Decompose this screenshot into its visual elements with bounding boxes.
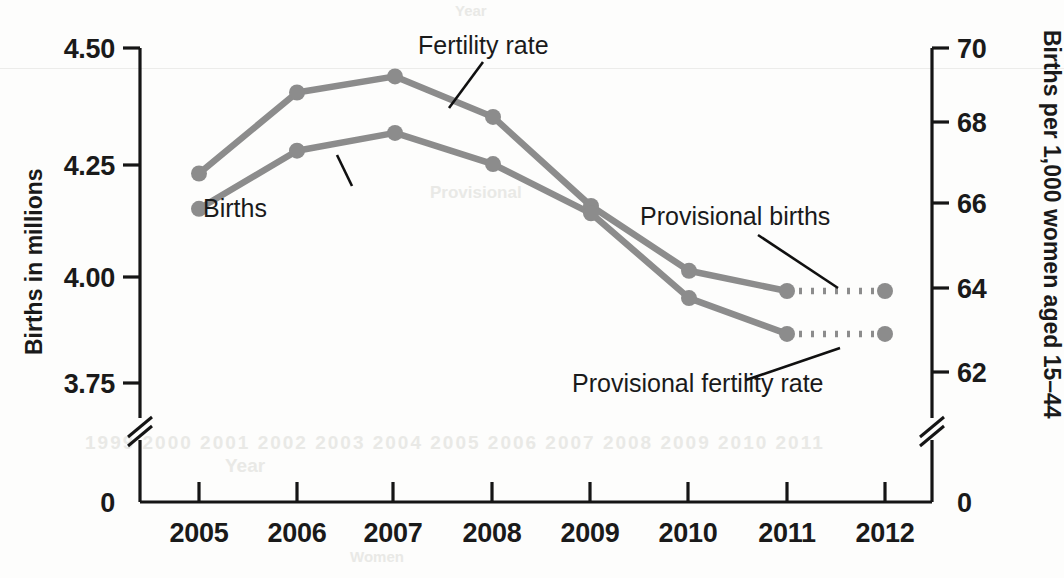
- x-tick-label-2007: 2007: [364, 518, 423, 548]
- right-tick-label-62: 62: [957, 358, 986, 388]
- x-tick-label-2006: 2006: [268, 518, 327, 548]
- provisional-fertility-rate-label: Provisional fertility rate: [572, 369, 823, 397]
- annotation-provisional-fertility-rate: Provisional fertility rate: [572, 348, 840, 397]
- right-tick-label-68: 68: [957, 108, 987, 138]
- marker-births-2007: [387, 125, 403, 141]
- chart-plot-area: 4.50 4.25 4.00 3.75 0 Births in millions…: [0, 0, 1064, 578]
- births-label: Births: [203, 194, 267, 222]
- fertility-rate-markers: [191, 68, 893, 299]
- x-tick-label-2011: 2011: [758, 518, 816, 548]
- left-tick-label-400: 4.00: [64, 263, 115, 293]
- x-tick-label-2009: 2009: [561, 518, 620, 548]
- marker-fertility-2007: [387, 68, 403, 84]
- series-fertility-rate: [191, 68, 893, 299]
- left-tick-label-425: 4.25: [64, 151, 116, 181]
- fertility-rate-leader-line: [449, 62, 483, 108]
- left-tick-label-375: 3.75: [64, 369, 116, 399]
- births-leader-line: [337, 155, 352, 186]
- marker-fertility-2012: [877, 283, 893, 299]
- left-axis: 4.50 4.25 4.00 3.75 0 Births in millions: [21, 34, 152, 518]
- provisional-births-leader-line: [758, 235, 838, 288]
- marker-fertility-2008: [485, 109, 501, 125]
- right-tick-label-zero: 0: [957, 488, 972, 518]
- marker-births-2012: [877, 326, 893, 342]
- right-axis: 70 68 66 64 62 0 Births per 1,000 women …: [920, 30, 1064, 518]
- fertility-rate-label: Fertility rate: [418, 31, 549, 59]
- marker-births-2010: [681, 290, 697, 306]
- right-tick-label-64: 64: [957, 274, 987, 304]
- marker-births-2008: [485, 156, 501, 172]
- right-tick-label-70: 70: [957, 34, 986, 64]
- marker-fertility-2006: [289, 85, 305, 101]
- marker-births-2006: [289, 143, 305, 159]
- annotation-provisional-births: Provisional births: [640, 202, 838, 288]
- provisional-births-label: Provisional births: [640, 202, 830, 230]
- x-tick-label-2010: 2010: [659, 518, 718, 548]
- marker-fertility-2011: [779, 283, 795, 299]
- marker-births-2009: [583, 205, 599, 221]
- marker-births-2011: [779, 326, 795, 342]
- x-tick-label-2005: 2005: [170, 518, 229, 548]
- x-tick-label-2012: 2012: [856, 518, 915, 548]
- x-tick-label-2008: 2008: [463, 518, 522, 548]
- right-tick-label-66: 66: [957, 189, 987, 219]
- x-axis: 2005 2006 2007 2008 2009 2010 2011 2012: [140, 482, 932, 548]
- marker-fertility-2005: [191, 166, 207, 182]
- left-axis-title: Births in millions: [21, 168, 47, 355]
- left-tick-label-450: 4.50: [64, 34, 115, 64]
- left-tick-label-zero: 0: [100, 488, 115, 518]
- fertility-rate-line: [199, 76, 787, 291]
- right-axis-title: Births per 1,000 women aged 15–44: [1039, 30, 1064, 419]
- chart-figure: Year Provisional 1999 2000 2001 2002 200…: [0, 0, 1064, 578]
- marker-fertility-2010: [681, 263, 697, 279]
